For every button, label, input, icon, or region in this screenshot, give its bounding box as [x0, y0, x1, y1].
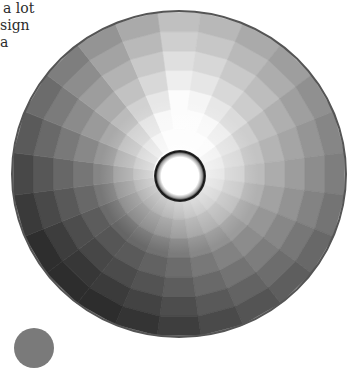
wheel-cell: [160, 32, 198, 51]
wheel-cell: [13, 153, 33, 196]
wheel-cell: [165, 258, 193, 277]
wheel-cell: [305, 155, 325, 192]
text-line: a lot: [0, 0, 60, 16]
wheel-cell: [162, 277, 195, 296]
wheel-cell: [285, 158, 305, 190]
corner-disc: [14, 328, 54, 368]
wheel-cell: [157, 12, 201, 31]
wheel-cell: [325, 153, 345, 196]
wheel-cell: [162, 51, 195, 70]
wheel-cell: [157, 316, 201, 335]
wheel-cell: [53, 158, 73, 190]
wheel-cell: [160, 297, 198, 316]
wheel-cell: [165, 71, 193, 90]
text-line: sign: [0, 17, 60, 33]
center-hole: [154, 150, 206, 202]
text-line: a: [0, 34, 60, 50]
wheel-cell: [265, 160, 285, 187]
body-text-fragment: a lot sign a: [0, 0, 60, 50]
wheel-cell: [73, 160, 93, 187]
wheel-cell: [33, 155, 53, 192]
